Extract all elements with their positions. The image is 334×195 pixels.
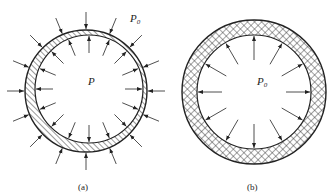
outer-pressure-arrow [110,18,117,34]
inner-pressure-arrow [40,103,56,110]
caption-b: (b) [247,182,258,192]
inner-pressure-arrow [282,108,303,120]
caption-a: (a) [78,182,88,192]
outer-pressure-arrow [143,61,159,68]
inner-pressure-label-a: P [87,75,95,87]
inner-pressure-arrow [282,64,303,76]
inner-pressure-arrow [226,120,238,141]
pressure-ring-diagram: P0 P (a) P0 (b) [0,0,334,195]
panel-a [7,12,165,170]
outer-pressure-arrow [13,115,29,122]
inner-pressure-arrow [122,103,138,110]
inner-pressure-arrow [52,52,64,64]
inner-pressure-arrow [103,122,110,138]
ring-a-outer [25,30,147,152]
inner-pressure-arrow [206,64,227,76]
outer-pressure-arrow [130,135,142,147]
outer-pressure-arrow [130,35,142,47]
inner-pressure-arrow [40,69,56,76]
inner-pressure-arrow [226,44,238,65]
outer-pressure-arrow [110,148,117,164]
panel-b [182,20,326,164]
inner-pressure-arrow [69,122,76,138]
outer-pressure-arrow [56,18,63,34]
outer-pressure-arrow [30,35,42,47]
outer-pressure-label-a: P0 [129,12,141,26]
inner-pressure-arrow [206,108,227,120]
outer-pressure-arrow [56,148,63,164]
inner-pressure-label-b: P0 [256,75,268,89]
inner-pressure-arrow [270,44,282,65]
inner-pressure-arrow [114,52,126,64]
outer-pressure-arrow [13,61,29,68]
inner-pressure-arrow [270,120,282,141]
inner-pressure-arrow [103,40,110,56]
inner-pressure-arrow [52,114,64,126]
inner-pressure-arrow [114,114,126,126]
inner-pressure-arrow [69,40,76,56]
outer-pressure-arrow [143,115,159,122]
inner-pressure-arrow [122,69,138,76]
outer-pressure-arrow [30,135,42,147]
